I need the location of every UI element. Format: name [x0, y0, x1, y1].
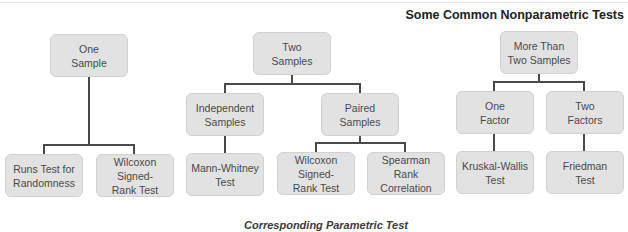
connector	[224, 136, 226, 153]
connector	[224, 83, 361, 85]
connector	[404, 142, 406, 152]
node-paired-samples: Paired Samples	[321, 93, 399, 136]
connector	[583, 134, 585, 151]
node-more-than-two-samples: More Than Two Samples	[500, 31, 578, 74]
node-runs-test: Runs Test for Randomness	[5, 154, 83, 197]
connector	[315, 142, 317, 152]
connector	[224, 83, 226, 93]
node-spearman: Spearman Rank Correlation	[367, 152, 445, 195]
node-kruskal-wallis: Kruskal-Wallis Test	[456, 151, 534, 194]
node-one-sample: One Sample	[50, 34, 128, 77]
node-wilcoxon-paired: Wilcoxon Signed- Rank Test	[277, 152, 355, 195]
connector	[493, 81, 495, 91]
connector	[583, 81, 585, 91]
node-one-factor: One Factor	[456, 91, 534, 134]
node-wilcoxon-one-sample: Wilcoxon Signed- Rank Test	[96, 154, 174, 197]
node-mann-whitney: Mann-Whitney Test	[186, 153, 264, 196]
node-independent-samples: Independent Samples	[186, 93, 264, 136]
connector	[43, 144, 45, 154]
connector	[359, 83, 361, 93]
connector	[493, 134, 495, 151]
connector	[43, 144, 135, 146]
connector	[493, 81, 585, 83]
connector	[88, 77, 90, 145]
connector	[133, 144, 135, 154]
top-divider	[0, 2, 628, 3]
diagram-title: Some Common Nonparametric Tests	[405, 8, 624, 22]
node-friedman: Friedman Test	[546, 151, 624, 194]
connector	[315, 142, 406, 144]
node-two-samples: Two Samples	[253, 32, 331, 75]
footer-caption: Corresponding Parametric Test	[244, 219, 408, 231]
node-two-factors: Two Factors	[546, 91, 624, 134]
